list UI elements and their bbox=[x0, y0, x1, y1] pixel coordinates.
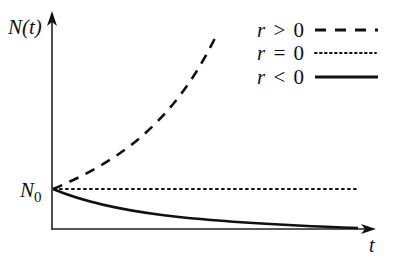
population-growth-chart: N(t) t N0 r > 0 r = 0 r bbox=[0, 0, 401, 274]
legend: r > 0 r = 0 r < 0 bbox=[257, 18, 378, 89]
legend-item-r-greater-zero: r > 0 bbox=[257, 18, 378, 42]
legend-item-r-less-zero: r < 0 bbox=[257, 65, 378, 89]
series-r-greater-zero bbox=[53, 38, 215, 189]
y-axis-label: N(t) bbox=[7, 15, 42, 39]
svg-text:r > 0: r > 0 bbox=[257, 18, 304, 42]
series-r-less-zero bbox=[53, 189, 358, 228]
x-axis-label: t bbox=[369, 234, 375, 256]
n0-label: N0 bbox=[19, 178, 42, 205]
legend-item-r-equal-zero: r = 0 bbox=[257, 41, 376, 65]
svg-text:r < 0: r < 0 bbox=[257, 65, 304, 89]
svg-text:r = 0: r = 0 bbox=[257, 41, 304, 65]
